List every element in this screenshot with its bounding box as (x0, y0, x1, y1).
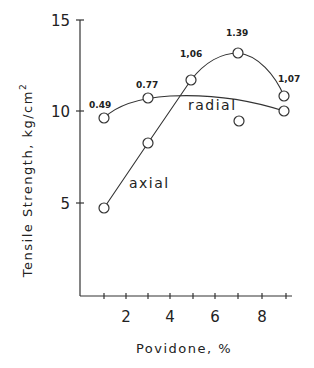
tensile-strength-chart: 15 10 5 2 4 6 8 Povidone, % Tensile Stre… (0, 0, 314, 368)
series-label-radial: radial (188, 97, 237, 113)
y-tick-10: 10 (51, 103, 70, 121)
x-tick-8: 8 (257, 308, 267, 326)
axial-point-7 (233, 48, 243, 58)
y-tick-5: 5 (60, 195, 70, 213)
series-label-axial: axial (129, 175, 170, 191)
y-tick-15: 15 (51, 12, 70, 30)
radial-point-9 (279, 106, 289, 116)
y-axis-title-main: Tensile Strength, kg/cm (20, 90, 35, 278)
svg-text:Tensile Strength, kg/cm2: Tensile Strength, kg/cm2 (18, 83, 35, 278)
radial-point-1 (99, 113, 109, 123)
annotation-1-06: 1,06 (180, 49, 202, 59)
x-axis-title: Povidone, % (136, 341, 232, 356)
y-axis-title-sup: 2 (18, 83, 28, 90)
x-tick-4: 4 (165, 308, 175, 326)
y-axis-title: Tensile Strength, kg/cm2 (18, 83, 35, 278)
radial-point-7 (234, 116, 244, 126)
annotation-1-07: 1,07 (278, 74, 300, 84)
axial-point-1 (99, 203, 109, 213)
x-tick-2: 2 (121, 308, 131, 326)
axial-point-3 (143, 138, 153, 148)
axial-point-5 (186, 75, 196, 85)
axial-point-9 (279, 91, 289, 101)
annotation-0-49: 0.49 (89, 100, 111, 110)
annotation-1-39: 1.39 (226, 28, 248, 38)
x-tick-6: 6 (210, 308, 220, 326)
axial-markers (99, 48, 289, 213)
radial-point-3 (143, 93, 153, 103)
annotation-0-77: 0.77 (136, 80, 158, 90)
